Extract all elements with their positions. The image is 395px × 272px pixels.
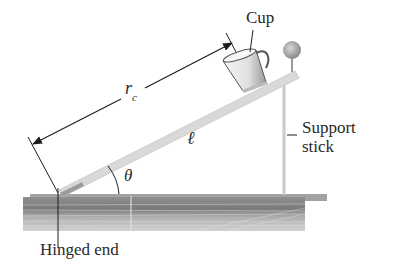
rc-main: r: [125, 78, 132, 98]
angle-label: θ: [124, 166, 132, 186]
diagram: Cup Support stick Hinged end rc ℓ θ: [0, 0, 395, 272]
support-stick-label: Support stick: [302, 118, 356, 156]
rc-sub: c: [132, 91, 137, 103]
ball: [283, 41, 301, 59]
cup: [222, 46, 268, 93]
support-label-line1: Support: [302, 118, 356, 137]
support-label-line2: stick: [302, 137, 356, 156]
inclined-board: [59, 71, 299, 197]
table: [23, 194, 327, 231]
hinged-end-label: Hinged end: [40, 240, 119, 260]
rc-label: rc: [125, 78, 137, 101]
length-label: ℓ: [187, 128, 195, 149]
cup-label: Cup: [246, 8, 274, 28]
